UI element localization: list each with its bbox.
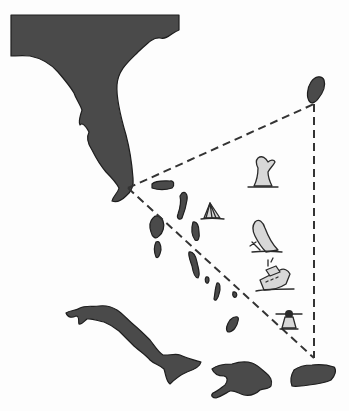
airplane-icon	[276, 310, 302, 329]
puerto-rico-island	[291, 365, 335, 387]
sailboat-icon	[201, 203, 224, 219]
hispaniola-island	[212, 362, 272, 398]
bermuda-triangle-map	[0, 0, 349, 411]
sinking-ship-bow-icon	[248, 157, 278, 187]
sinking-ship-icon	[256, 258, 294, 291]
cuba-island	[66, 306, 201, 384]
sinking-plane-icon	[250, 220, 282, 252]
florida-landmass	[11, 15, 179, 202]
bermuda-island	[307, 77, 324, 103]
bahamas-islands	[150, 181, 238, 332]
route-miami-bermuda	[128, 104, 314, 188]
map-canvas	[0, 0, 349, 411]
